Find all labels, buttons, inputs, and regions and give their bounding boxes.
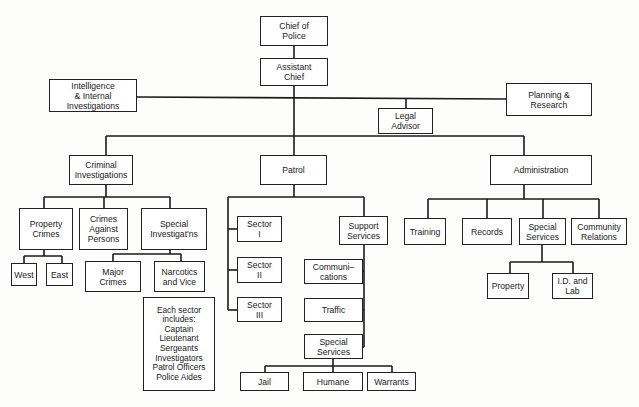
node-label: I.D. and Lab: [557, 276, 587, 296]
node-label: Major Crimes: [99, 267, 126, 287]
node-label: Jail: [258, 377, 271, 387]
node-training: Training: [404, 218, 446, 245]
node-label: Sector II: [247, 260, 272, 280]
node-chief-of-police: Chief of Police: [260, 16, 328, 46]
node-special-investigations: Special Investigat'ns: [141, 208, 207, 250]
node-label: Intelligence & Internal Investigations: [67, 81, 120, 111]
node-west: West: [11, 263, 37, 286]
node-support-services: Support Services: [339, 216, 388, 245]
node-narcotics-and-vice: Narcotics and Vice: [154, 261, 205, 292]
node-label: Community Relations: [577, 222, 620, 242]
node-community-relations: Community Relations: [571, 218, 627, 245]
node-label: West: [14, 270, 33, 280]
node-legal-advisor: Legal Advisor: [378, 108, 433, 134]
org-chart: Chief of Police Assistant Chief Intellig…: [0, 0, 639, 407]
node-patrol-special-services: Special Services: [304, 334, 363, 359]
node-label: Records: [471, 227, 503, 237]
node-patrol: Patrol: [260, 155, 327, 185]
node-property: Property: [487, 273, 529, 299]
node-crimes-against-persons: Crimes Against Persons: [79, 208, 128, 250]
node-label: Criminal Investigations: [75, 160, 128, 180]
node-sector-1: Sector I: [237, 216, 282, 242]
node-traffic: Traffic: [304, 298, 363, 322]
node-communications: Communi– cations: [304, 259, 363, 284]
node-planning-research: Planning & Research: [506, 83, 592, 116]
node-label: Training: [410, 227, 441, 237]
node-jail: Jail: [240, 372, 289, 391]
node-label: Special Services: [526, 222, 559, 242]
node-label: Narcotics and Vice: [162, 267, 198, 287]
node-label: Property: [492, 281, 524, 291]
node-label: Warrants: [374, 377, 409, 387]
node-property-crimes: Property Crimes: [19, 208, 73, 250]
node-label: Property Crimes: [30, 219, 62, 239]
node-label: Legal Advisor: [391, 111, 420, 131]
node-label: Traffic: [322, 305, 345, 315]
node-humane: Humane: [303, 372, 363, 391]
node-label: Special Services: [317, 337, 350, 357]
node-label: Special Investigat'ns: [150, 219, 198, 239]
node-label: Chief of Police: [279, 21, 309, 41]
node-label: Patrol: [282, 165, 304, 175]
node-label: Communi– cations: [313, 262, 355, 282]
sector-composition-note: Each sector includes: Captain Lieutenant…: [143, 297, 215, 391]
node-label: East: [51, 270, 68, 280]
node-label: Planning & Research: [528, 90, 570, 110]
node-label: Crimes Against Persons: [88, 214, 120, 244]
node-criminal-investigations: Criminal Investigations: [69, 155, 133, 185]
node-records: Records: [462, 218, 512, 245]
node-administration: Administration: [490, 155, 592, 185]
node-sector-3: Sector III: [237, 297, 282, 322]
node-major-crimes: Major Crimes: [85, 261, 141, 292]
node-label: Administration: [514, 165, 568, 175]
node-label: Assistant Chief: [277, 62, 312, 82]
node-east: East: [46, 263, 73, 286]
node-assistant-chief: Assistant Chief: [260, 58, 328, 86]
note-text: Each sector includes: Captain Lieutenant…: [153, 306, 206, 383]
node-label: Humane: [317, 377, 349, 387]
node-label: Sector III: [247, 300, 272, 320]
node-id-and-lab: I.D. and Lab: [552, 273, 593, 299]
node-intelligence-internal-investigations: Intelligence & Internal Investigations: [49, 79, 137, 112]
node-warrants: Warrants: [367, 372, 416, 391]
node-label: Sector I: [247, 219, 272, 239]
node-admin-special-services: Special Services: [519, 218, 566, 245]
node-label: Support Services: [347, 221, 380, 241]
node-sector-2: Sector II: [237, 257, 282, 283]
